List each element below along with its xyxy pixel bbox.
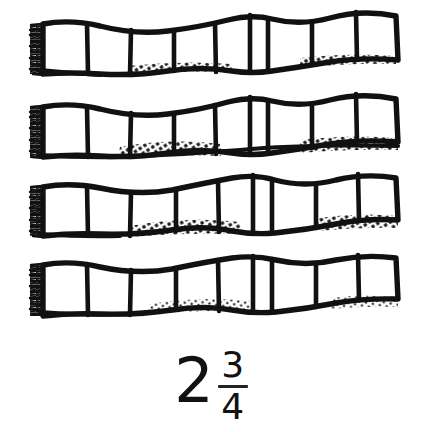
- fraction-bar-2: [30, 94, 398, 158]
- mixed-number-label: 2 3 4: [0, 344, 422, 432]
- fraction-bar-3: [30, 174, 398, 237]
- fraction-denominator: 4: [220, 388, 246, 426]
- fraction: 3 4: [218, 344, 248, 426]
- whole-number: 2: [174, 344, 212, 418]
- fraction-bar-4: [30, 255, 398, 316]
- fraction-bar-1: [30, 12, 398, 75]
- fraction-bars-drawing: [0, 0, 422, 340]
- fraction-bars-figure: 2 3 4: [0, 0, 422, 432]
- fraction-numerator: 3: [220, 346, 246, 384]
